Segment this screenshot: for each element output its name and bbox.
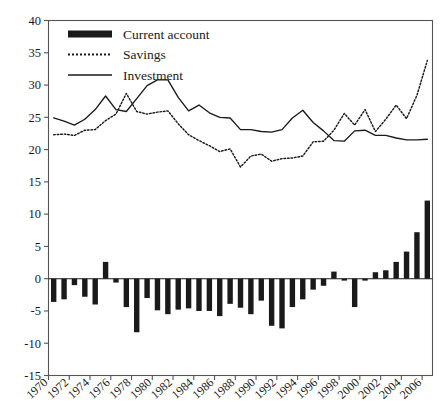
bar [248, 279, 253, 315]
bar [227, 279, 232, 304]
y-tick-label: -5 [31, 304, 41, 318]
bar [300, 279, 305, 300]
bar [362, 279, 367, 281]
bar [103, 262, 108, 279]
chart-container: -15-10-505101520253035401970197219741976… [0, 0, 445, 415]
bar [352, 279, 357, 307]
y-tick-label: -10 [24, 337, 41, 351]
bar [72, 279, 77, 285]
bar [279, 279, 284, 329]
bar [144, 279, 149, 298]
bar [155, 279, 160, 311]
bar [383, 270, 388, 278]
bar [269, 279, 274, 326]
bar [331, 272, 336, 279]
bar [342, 279, 347, 281]
y-tick-label: 30 [29, 78, 42, 92]
legend-label-current-account: Current account [123, 27, 210, 42]
investment-line [54, 80, 428, 141]
bar [186, 279, 191, 309]
bar [51, 279, 56, 302]
bar [425, 201, 430, 279]
y-tick-label: 20 [29, 143, 42, 157]
bar [61, 279, 66, 300]
bar [259, 279, 264, 301]
bar [93, 279, 98, 305]
bar [238, 279, 243, 308]
bar [82, 279, 87, 297]
y-tick-label: 0 [35, 272, 41, 286]
bar [124, 279, 129, 307]
legend-marker-current-account [68, 31, 112, 38]
y-tick-label: 40 [29, 14, 42, 28]
y-tick-label: 10 [29, 207, 42, 221]
bar [321, 279, 326, 286]
y-tick-label: 5 [35, 240, 41, 254]
bar [414, 232, 419, 278]
bar [113, 279, 118, 283]
bar [196, 279, 201, 311]
bar [404, 252, 409, 279]
legend-label-savings: Savings [123, 47, 166, 62]
bar-series [51, 201, 430, 333]
bar [165, 279, 170, 315]
bar [373, 272, 378, 278]
bar [393, 262, 398, 279]
legend-label-investment: Investment [123, 68, 183, 83]
bar [134, 279, 139, 333]
chart-svg: -15-10-505101520253035401970197219741976… [0, 0, 445, 415]
y-tick-label: 35 [29, 46, 42, 60]
savings-line [54, 61, 428, 168]
y-tick-label: 25 [29, 111, 42, 125]
bar [176, 279, 181, 310]
bar [217, 279, 222, 316]
bar [290, 279, 295, 307]
y-tick-label: 15 [29, 175, 42, 189]
plot-frame [49, 21, 433, 376]
bar [207, 279, 212, 311]
bar [310, 279, 315, 290]
